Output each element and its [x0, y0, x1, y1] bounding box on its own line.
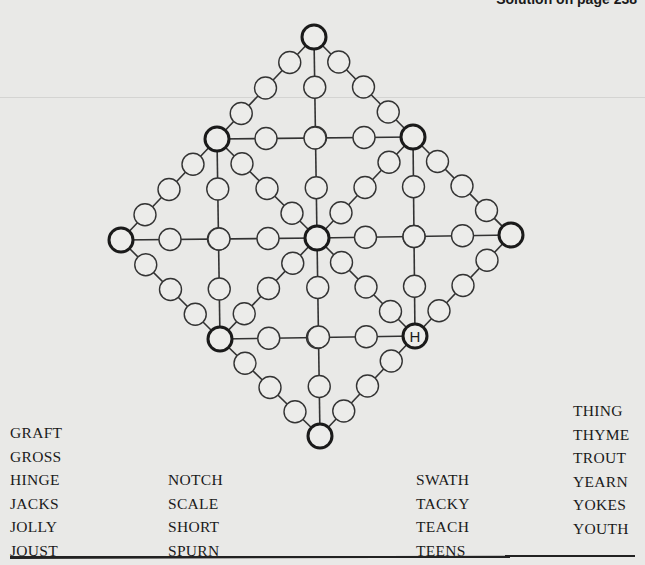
letter-cell[interactable]	[308, 326, 330, 348]
letter-cell[interactable]	[378, 151, 400, 173]
letter-cell[interactable]	[304, 76, 326, 98]
junction-cell[interactable]	[208, 327, 232, 351]
letter-cell[interactable]	[452, 275, 474, 297]
letter-cell[interactable]	[353, 76, 375, 98]
word-column-2: NOTCH SCALE SHORT SPURN	[168, 468, 223, 562]
letter-cell[interactable]	[333, 400, 355, 422]
word: TROUT	[573, 446, 630, 470]
letter-cell[interactable]	[281, 202, 303, 224]
letter-cell[interactable]	[207, 178, 229, 200]
word: TACKY	[416, 492, 470, 516]
letter-cell[interactable]	[403, 176, 425, 198]
junction-cell[interactable]	[305, 226, 329, 250]
letter-cell[interactable]	[208, 278, 230, 300]
word-column-4: THING THYME TROUT YEARN YOKES YOUTH	[573, 399, 630, 540]
word: GROSS	[10, 445, 62, 469]
letter-cell[interactable]	[160, 279, 182, 301]
letter-cell[interactable]	[231, 153, 253, 175]
letter-cell[interactable]	[234, 352, 256, 374]
letter-cell[interactable]	[279, 52, 301, 74]
letter-cell[interactable]	[230, 103, 252, 125]
word: THYME	[573, 423, 630, 447]
letter-cell[interactable]	[184, 303, 206, 325]
letter-cell[interactable]	[258, 327, 280, 349]
letter-cell[interactable]	[328, 51, 350, 73]
letter-cell[interactable]	[380, 301, 402, 323]
letter-cell[interactable]	[427, 151, 449, 173]
word: THING	[573, 399, 630, 423]
letter-cell[interactable]	[182, 153, 204, 175]
letter-cell[interactable]	[255, 77, 277, 99]
junction-cell[interactable]	[308, 424, 332, 448]
word: YOUTH	[573, 517, 630, 541]
letter-cell[interactable]	[255, 128, 277, 150]
letter-cell[interactable]	[355, 326, 377, 348]
letter-cell[interactable]	[305, 177, 327, 199]
letter-cell[interactable]	[355, 276, 377, 298]
word: TEENS	[416, 539, 470, 563]
letter-cell[interactable]	[452, 225, 474, 247]
word: SCALE	[168, 492, 223, 516]
word-column-1: GRAFT GROSS HINGE JACKS JOLLY JOUST	[10, 421, 62, 562]
letter-cell[interactable]	[451, 175, 473, 197]
letter-cell[interactable]	[135, 254, 157, 276]
letter-cell[interactable]	[476, 200, 498, 222]
bottom-rule-left	[10, 556, 510, 558]
letter-cell[interactable]	[307, 277, 329, 299]
letter-cell[interactable]	[233, 303, 255, 325]
letter-cell[interactable]	[259, 377, 281, 399]
junction-cell[interactable]	[499, 223, 523, 247]
word-grid-diagram: H	[0, 0, 645, 470]
letter-cell[interactable]	[284, 401, 306, 423]
junction-cell[interactable]	[401, 125, 425, 149]
given-letter: H	[410, 328, 421, 345]
letter-cell[interactable]	[476, 249, 498, 271]
letter-cell[interactable]	[330, 202, 352, 224]
word: HINGE	[10, 468, 62, 492]
letter-cell[interactable]	[134, 204, 156, 226]
letter-cell[interactable]	[357, 375, 379, 397]
word: JOLLY	[10, 515, 62, 539]
letter-cell[interactable]	[208, 228, 230, 250]
letter-cell[interactable]	[304, 127, 326, 149]
word: GRAFT	[10, 421, 62, 445]
junction-cell[interactable]	[302, 25, 326, 49]
word: SHORT	[168, 515, 223, 539]
junction-cell[interactable]	[109, 228, 133, 252]
letter-cell[interactable]	[380, 350, 402, 372]
word: TEACH	[416, 515, 470, 539]
letter-cell[interactable]	[308, 376, 330, 398]
letter-cell[interactable]	[377, 101, 399, 123]
letter-cell[interactable]	[159, 229, 181, 251]
word: YOKES	[573, 493, 630, 517]
letter-cell[interactable]	[331, 252, 353, 274]
letter-cell[interactable]	[403, 226, 425, 248]
junction-cell[interactable]	[205, 127, 229, 151]
letter-cell[interactable]	[158, 179, 180, 201]
word: JACKS	[10, 492, 62, 516]
word: SWATH	[416, 468, 470, 492]
word: YEARN	[573, 470, 630, 494]
word: NOTCH	[168, 468, 223, 492]
letter-cell[interactable]	[355, 226, 377, 248]
bottom-rule-right	[505, 555, 635, 557]
letter-cell[interactable]	[428, 300, 450, 322]
letter-cell[interactable]	[354, 177, 376, 199]
word-column-3: SWATH TACKY TEACH TEENS	[416, 468, 470, 562]
letter-cell[interactable]	[258, 278, 280, 300]
letter-cell[interactable]	[256, 178, 278, 200]
letter-cell[interactable]	[257, 228, 279, 250]
letter-cell[interactable]	[353, 127, 375, 149]
letter-cell[interactable]	[404, 275, 426, 297]
letter-cell[interactable]	[282, 252, 304, 274]
